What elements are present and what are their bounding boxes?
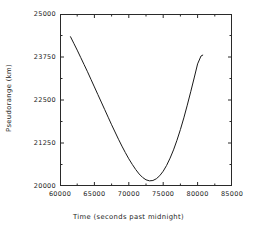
x-axis-title: Time (seconds past midnight) [0, 213, 257, 221]
y-tick-label: 25000 [34, 11, 56, 18]
x-tick-label: 80000 [187, 191, 209, 198]
x-tick-label: 65000 [83, 191, 105, 198]
y-tick-label: 23750 [34, 54, 56, 61]
y-axis-title: Pseudorange (km) [5, 33, 13, 163]
y-tick-label: 22500 [34, 97, 56, 104]
axis-tick-marks [60, 14, 232, 186]
y-tick-label: 20000 [34, 183, 56, 190]
y-tick-label: 21250 [34, 140, 56, 147]
x-axis-tick-labels: 600006500070000750008000085000 [0, 191, 257, 203]
y-axis-title-wrapper: Pseudorange (km) [5, 33, 17, 163]
x-tick-label: 85000 [221, 191, 243, 198]
x-tick-label: 70000 [118, 191, 140, 198]
x-tick-label: 75000 [152, 191, 174, 198]
pseudorange-curve [70, 36, 203, 180]
pseudorange-chart-figure: 2000021250225002375025000 60000650007000… [0, 0, 257, 235]
plot-area [60, 14, 232, 186]
x-tick-label: 60000 [49, 191, 71, 198]
